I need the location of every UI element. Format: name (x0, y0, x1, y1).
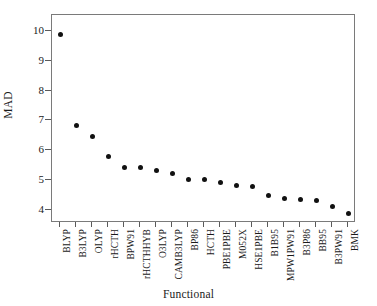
data-point (234, 183, 239, 188)
data-point (154, 168, 159, 173)
data-point (106, 154, 111, 159)
x-tick-label-HSE1PBE: HSE1PBE (255, 229, 265, 270)
data-point (90, 134, 95, 139)
x-tick-label-HCTH: HCTH (207, 229, 217, 255)
x-tick-B3LYP (75, 222, 76, 227)
data-points-layer (52, 15, 354, 221)
chart-figure: MAD 45678910 BLYPB3LYPOLYPrHCTHBPW91rHCT… (0, 0, 377, 306)
x-tick-label-CAMB3LYP: CAMB3LYP (175, 229, 185, 280)
x-tick-label-BPW91: BPW91 (127, 229, 137, 260)
x-tick-label-M052X: M052X (239, 229, 249, 259)
x-tick-label-B3LYP: B3LYP (79, 229, 89, 258)
data-point (170, 171, 175, 176)
x-tick-B3PW91 (331, 222, 332, 227)
data-point (250, 184, 255, 189)
y-tick-label-9: 9 (39, 55, 45, 66)
x-tick-B3P86 (299, 222, 300, 227)
y-axis-title: MAD (2, 91, 14, 118)
x-tick-BB95 (315, 222, 316, 227)
y-tick-label-5: 5 (39, 173, 45, 184)
data-point (186, 177, 191, 182)
x-tick-BLYP (59, 222, 60, 227)
y-tick-label-7: 7 (39, 114, 45, 125)
y-tick-label-8: 8 (39, 84, 45, 95)
x-tick-CAMB3LYP (171, 222, 172, 227)
x-tick-BMK (347, 222, 348, 227)
x-tick-B1B95 (267, 222, 268, 227)
x-tick-HSE1PBE (251, 222, 252, 227)
x-tick-label-B1B95: B1B95 (271, 229, 281, 256)
x-tick-OLYP (91, 222, 92, 227)
x-tick-BP86 (187, 222, 188, 227)
x-tick-HCTH (203, 222, 204, 227)
data-point (138, 165, 143, 170)
x-tick-label-MPW1PW91: MPW1PW91 (287, 229, 297, 281)
data-point (218, 180, 223, 185)
x-tick-MPW1PW91 (283, 222, 284, 227)
data-point (202, 177, 207, 182)
x-tick-label-OLYP: OLYP (95, 229, 105, 253)
y-tick-label-4: 4 (39, 203, 45, 214)
x-tick-label-B3P86: B3P86 (303, 229, 313, 255)
data-point (122, 165, 127, 170)
x-tick-M052X (235, 222, 236, 227)
x-tick-PBE1PBE (219, 222, 220, 227)
x-tick-label-BLYP: BLYP (63, 229, 73, 253)
x-tick-label-BP86: BP86 (191, 229, 201, 251)
x-tick-label-BB95: BB95 (319, 229, 329, 252)
y-tick-label-6: 6 (39, 144, 45, 155)
data-point (346, 211, 351, 216)
data-point (282, 196, 287, 201)
x-axis-title: Functional (0, 288, 377, 300)
y-tick-label-10: 10 (33, 25, 44, 36)
x-tick-label-BMK: BMK (351, 229, 361, 251)
x-tick-BPW91 (123, 222, 124, 227)
data-point (298, 197, 303, 202)
x-tick-label-B3PW91: B3PW91 (335, 229, 345, 264)
x-tick-label-rHCTH: rHCTH (111, 229, 121, 259)
data-point (74, 123, 79, 128)
data-point (330, 204, 335, 209)
data-point (314, 198, 319, 203)
x-tick-label-O3LYP: O3LYP (159, 229, 169, 258)
data-point (58, 32, 63, 37)
x-tick-label-PBE1PBE: PBE1PBE (223, 229, 233, 269)
x-tick-O3LYP (155, 222, 156, 227)
data-point (266, 193, 271, 198)
x-tick-label-rHCTHHYB: rHCTHHYB (143, 229, 153, 279)
x-tick-rHCTH (107, 222, 108, 227)
x-tick-rHCTHHYB (139, 222, 140, 227)
plot-area (51, 14, 355, 222)
